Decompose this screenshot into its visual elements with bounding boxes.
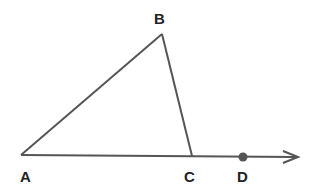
label-c: C xyxy=(184,168,195,185)
triangle-diagram xyxy=(0,0,315,195)
label-b: B xyxy=(154,10,165,27)
ray-ad xyxy=(21,155,296,157)
segment-ab xyxy=(21,34,162,155)
point-d xyxy=(239,153,248,162)
segment-bc xyxy=(162,34,192,156)
label-d: D xyxy=(237,168,248,185)
label-a: A xyxy=(20,168,31,185)
